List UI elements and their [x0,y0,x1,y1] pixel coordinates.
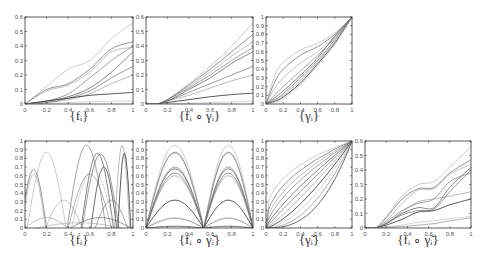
data-line [266,141,352,228]
data-line [266,141,352,228]
data-line [266,141,352,228]
y-tick-label: 0.1 [136,87,145,93]
y-tick-label: 0.3 [136,58,145,64]
plot-lines [146,23,253,105]
y-tick-label: 0.1 [15,87,24,93]
y-tick-label: 0.4 [136,190,145,196]
y-tick-label: 0.3 [15,58,24,64]
y-tick-label: 0.3 [355,182,364,188]
y-tick-label: 0.7 [136,164,145,170]
data-line [365,160,471,229]
y-tick-label: 1 [141,138,145,144]
y-tick-label: 0.9 [256,147,265,153]
data-line [146,47,253,104]
y-tick-label: 1 [20,138,24,144]
data-line [21,170,47,228]
y-tick-label: 1 [261,14,265,20]
data-line [25,47,133,104]
y-tick-label: 0.8 [256,155,265,161]
data-line [266,141,352,228]
y-tick-label: 0.2 [256,84,265,90]
plot-axes: 00.20.40.60.8100.10.20.30.40.50.60.70.80… [146,141,253,228]
plot-axes: 00.20.40.60.8100.10.20.30.40.50.6 [146,17,253,104]
plot-lines [25,23,133,104]
y-tick-label: 0.3 [136,199,145,205]
data-line [25,52,133,104]
y-tick-label: 0.4 [15,190,24,196]
plot-lines [365,147,471,229]
data-line [266,141,352,228]
y-tick-label: 0.6 [355,138,364,144]
y-tick-label: 0.6 [136,173,145,179]
y-tick-label: 1 [261,138,265,144]
y-tick-label: 0.6 [15,173,24,179]
plot-axes: 00.20.40.60.8100.10.20.30.40.50.60.70.80… [266,17,352,104]
plot-caption-fdot: {ḟᵢ} [25,232,133,248]
plot-panel-fdotgamma: 00.20.40.60.8100.10.20.30.40.50.60.70.80… [146,141,253,228]
y-tick-label: 0.3 [256,199,265,205]
data-line [266,141,352,228]
plot-panel-fgammatilde: 00.20.40.60.8100.10.20.30.40.50.6 [365,141,471,228]
plot-axes: 00.20.40.60.8100.10.20.30.40.50.60.70.80… [25,141,133,228]
y-tick-label: 0.8 [256,31,265,37]
plot-lines [266,141,352,228]
plot-caption-fdotgamma: {ḟᵢ ∘ γ̃ᵢ} [146,232,253,248]
y-tick-label: 0.2 [256,208,265,214]
plot-panel-fdot: 00.20.40.60.8100.10.20.30.40.50.60.70.80… [25,141,133,228]
plot-caption-gammatilde: {γ̃ᵢ} [266,232,352,248]
data-line [91,167,117,228]
plot-panel-fgamma: 00.20.40.60.8100.10.20.30.40.50.6 [146,17,253,104]
data-line [365,147,471,229]
plot-panel-f: 00.20.40.60.8100.10.20.30.40.50.6 [25,17,133,104]
plot-panel-gamma: 00.20.40.60.8100.10.20.30.40.50.60.70.80… [266,17,352,104]
y-tick-label: 0.2 [136,208,145,214]
data-line [266,141,352,228]
y-tick-label: 0.3 [256,75,265,81]
y-tick-label: 0.4 [15,43,24,49]
plot-axes: 00.20.40.60.8100.10.20.30.40.50.60.70.80… [266,141,352,228]
data-line [71,170,114,228]
data-line [82,154,119,228]
y-tick-label: 0.5 [355,153,364,159]
plot-caption-f: {fᵢ} [25,108,133,124]
y-tick-label: 0.9 [15,147,24,153]
plot-panel-gammatilde: 00.20.40.60.8100.10.20.30.40.50.60.70.80… [266,141,352,228]
data-line [266,141,352,228]
y-tick-label: 0.8 [136,155,145,161]
y-tick-label: 0.9 [256,23,265,29]
y-tick-label: 0.5 [136,29,145,35]
y-tick-label: 0.7 [15,164,24,170]
y-tick-label: 0.5 [15,29,24,35]
data-line [266,141,352,228]
plot-caption-fgamma: {fᵢ ∘ γᵢ} [146,108,253,124]
data-line [25,66,133,104]
y-tick-label: 0.2 [15,208,24,214]
y-tick-label: 0.5 [256,58,265,64]
y-tick-label: 0.1 [136,216,145,222]
y-tick-label: 0.7 [256,40,265,46]
data-line [146,52,253,104]
y-tick-label: 0.1 [256,92,265,98]
y-tick-label: 0.4 [256,66,265,72]
y-tick-label: 0.6 [256,49,265,55]
y-tick-label: 0.7 [256,164,265,170]
plot-caption-fgammatilde: {fᵢ ∘ γ̃ᵢ} [365,232,471,248]
data-line [266,141,352,228]
y-tick-label: 0.5 [15,182,24,188]
data-line [365,164,471,228]
y-tick-label: 0.8 [15,155,24,161]
y-tick-label: 0.1 [15,216,24,222]
y-tick-label: 0.4 [355,167,364,173]
y-tick-label: 0.4 [256,190,265,196]
y-tick-label: 0.6 [15,14,24,20]
y-tick-label: 0.6 [136,14,145,20]
plot-axes: 00.20.40.60.8100.10.20.30.40.50.6 [25,17,133,104]
data-line [25,23,133,104]
y-tick-label: 0.5 [256,182,265,188]
plot-lines [266,17,352,104]
y-tick-label: 0.6 [256,173,265,179]
y-tick-label: 0.3 [15,199,24,205]
y-tick-label: 0.1 [256,216,265,222]
data-line [25,42,133,104]
y-tick-label: 0.1 [355,211,364,217]
